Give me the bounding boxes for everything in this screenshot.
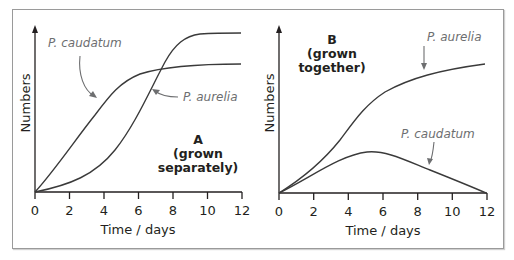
svg-text:4: 4 xyxy=(344,204,352,219)
panel-b: 0 2 4 6 8 10 12 Time / days Numbers P. a… xyxy=(262,25,495,238)
x-tick-labels-a: 0 2 4 6 8 10 12 xyxy=(31,203,250,218)
svg-text:4: 4 xyxy=(100,203,108,218)
svg-text:6: 6 xyxy=(379,204,387,219)
svg-text:(grown: (grown xyxy=(173,146,223,161)
svg-text:12: 12 xyxy=(234,203,251,218)
curve-b-caudatum xyxy=(279,152,486,193)
svg-text:2: 2 xyxy=(310,204,318,219)
pointer-a-caudatum xyxy=(80,56,94,96)
y-axis-title-a: Numbers xyxy=(18,73,33,132)
label-b-aurelia: P. aurelia xyxy=(427,30,482,44)
x-axis-title-b: Time / days xyxy=(344,223,420,238)
svg-text:10: 10 xyxy=(199,203,216,218)
svg-text:12: 12 xyxy=(479,204,496,219)
svg-text:2: 2 xyxy=(65,203,73,218)
arrow-icon xyxy=(152,89,160,95)
x-ticks-b xyxy=(279,193,487,200)
arrow-icon xyxy=(421,63,427,70)
svg-text:0: 0 xyxy=(275,204,283,219)
svg-text:6: 6 xyxy=(134,203,142,218)
panel-b-title: B (grown together) xyxy=(298,32,365,75)
svg-text:10: 10 xyxy=(444,204,461,219)
x-ticks-a xyxy=(35,192,242,199)
svg-text:separately): separately) xyxy=(158,160,239,175)
x-axis-title-a: Time / days xyxy=(99,222,175,237)
svg-text:8: 8 xyxy=(414,204,422,219)
label-a-aurelia: P. aurelia xyxy=(183,90,238,104)
svg-text:0: 0 xyxy=(31,203,39,218)
label-b-caudatum: P. caudatum xyxy=(401,127,475,141)
y-axis-arrow-icon xyxy=(276,25,282,33)
chart-canvas: 0 2 4 6 8 10 12 Time / days Numbers P. c… xyxy=(0,0,514,260)
svg-text:A: A xyxy=(193,132,203,147)
panel-a: 0 2 4 6 8 10 12 Time / days Numbers P. c… xyxy=(18,25,250,237)
y-axis-arrow-icon xyxy=(32,25,38,33)
svg-text:B: B xyxy=(327,32,337,47)
arrow-icon xyxy=(427,158,433,165)
arrow-icon xyxy=(89,91,97,98)
y-axis-title-b: Numbers xyxy=(262,73,277,132)
label-a-caudatum: P. caudatum xyxy=(48,36,122,50)
panel-a-title: A (grown separately) xyxy=(158,132,239,175)
svg-text:8: 8 xyxy=(169,203,177,218)
x-tick-labels-b: 0 2 4 6 8 10 12 xyxy=(275,204,495,219)
svg-text:(grown: (grown xyxy=(307,46,357,61)
svg-text:together): together) xyxy=(298,60,365,75)
